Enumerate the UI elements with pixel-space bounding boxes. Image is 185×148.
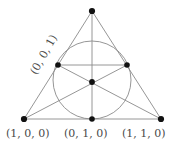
- point-bottom-edge-midpoint: [89, 116, 95, 122]
- point-bottom-right-vertex: [158, 116, 164, 122]
- point-right-edge-midpoint: [124, 62, 130, 68]
- label-bottom-edge-midpoint: (0, 1, 0): [64, 127, 108, 140]
- median-bottom-right-to-left-mid: [58, 65, 161, 119]
- point-bottom-left-vertex: [21, 116, 27, 122]
- geometry-figure: (1, 0, 0) (0, 1, 0) (1, 1, 0) (0, 0, 1): [0, 0, 185, 148]
- point-left-edge-midpoint: [55, 62, 61, 68]
- triangle-diagram-svg: [0, 0, 185, 148]
- label-bottom-left-vertex: (1, 0, 0): [6, 127, 50, 140]
- point-apex: [89, 8, 95, 14]
- point-centroid: [89, 79, 95, 85]
- label-bottom-right-vertex: (1, 1, 0): [122, 127, 166, 140]
